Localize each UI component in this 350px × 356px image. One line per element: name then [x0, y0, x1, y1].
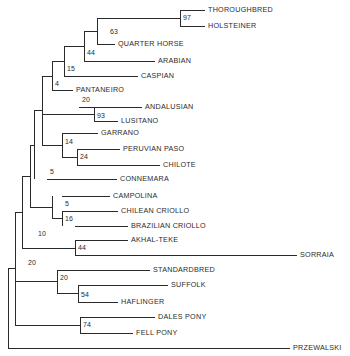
bootstrap-value: 74 — [83, 321, 91, 328]
leaf-label-brazilian-criollo: BRAZILIAN CRIOLLO — [131, 222, 206, 229]
leaf-label-caspian: CASPIAN — [141, 72, 174, 79]
leaf-label-haflinger: HAFLINGER — [121, 298, 164, 305]
bootstrap-value: 14 — [65, 138, 73, 145]
bootstrap-value: 15 — [67, 65, 75, 72]
leaf-label-garrano: GARRANO — [101, 129, 139, 136]
leaf-label-dales-pony: DALES PONY — [158, 313, 206, 320]
bootstrap-value: 20 — [60, 274, 68, 281]
bootstrap-value: 20 — [28, 259, 36, 266]
leaf-label-lusitano: LUSITANO — [121, 117, 158, 124]
leaf-label-holsteiner: HOLSTEINER — [208, 22, 256, 29]
leaf-label-peruvian-paso: PERUVIAN PASO — [123, 145, 184, 152]
bootstrap-value: 24 — [80, 153, 88, 160]
tree-branches-svg — [0, 0, 350, 356]
leaf-label-standardbred: STANDARDBRED — [153, 266, 215, 273]
leaf-label-akhal-teke: AKHAL-TEKE — [131, 236, 178, 243]
leaf-label-pantaneiro: PANTANEIRO — [76, 86, 124, 93]
bootstrap-value: 5 — [50, 168, 54, 175]
leaf-label-chilote: CHILOTE — [163, 161, 196, 168]
leaf-label-thoroughbred: THOROUGHBRED — [208, 6, 273, 13]
leaf-label-sorraia: SORRAIA — [300, 251, 334, 258]
bootstrap-value: 20 — [82, 96, 90, 103]
leaf-label-przewalski: PRZEWALSKI — [293, 344, 342, 351]
bootstrap-value: 4 — [55, 80, 59, 87]
leaf-label-fell-pony: FELL PONY — [136, 329, 178, 336]
bootstrap-value: 54 — [81, 291, 89, 298]
bootstrap-value: 63 — [110, 28, 118, 35]
leaf-label-quarter-horse: QUARTER HORSE — [118, 40, 184, 47]
bootstrap-value: 16 — [65, 215, 73, 222]
bootstrap-value: 44 — [78, 244, 86, 251]
leaf-label-campolina: CAMPOLINA — [113, 192, 158, 199]
phylogenetic-tree-figure: THOROUGHBREDHOLSTEINERQUARTER HORSEARABI… — [0, 0, 350, 356]
leaf-label-andalusian: ANDALUSIAN — [145, 103, 193, 110]
bootstrap-value: 10 — [38, 230, 46, 237]
bootstrap-value: 44 — [87, 49, 95, 56]
leaf-label-suffolk: SUFFOLK — [171, 281, 206, 288]
leaf-label-chilean-criollo: CHILEAN CRIOLLO — [121, 207, 189, 214]
bootstrap-value: 93 — [97, 112, 105, 119]
leaf-label-connemara: CONNEMARA — [120, 175, 169, 182]
bootstrap-value: 5 — [65, 200, 69, 207]
leaf-label-arabian: ARABIAN — [158, 57, 191, 64]
bootstrap-value: 97 — [183, 14, 191, 21]
